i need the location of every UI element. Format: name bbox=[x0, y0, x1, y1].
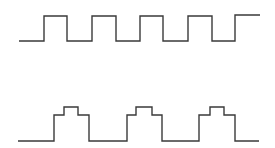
stepped-pulse-wave bbox=[18, 107, 259, 141]
square-wave bbox=[19, 15, 260, 41]
waveform-diagram bbox=[0, 0, 275, 148]
